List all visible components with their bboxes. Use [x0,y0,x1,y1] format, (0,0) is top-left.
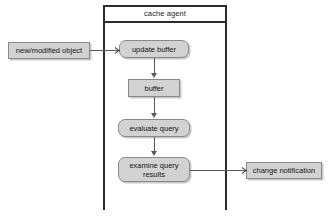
arrowhead-into-change-notification-icon [242,166,247,174]
node-evaluate-query-label: evaluate query [126,124,181,133]
node-change-notification-label: change notification [250,166,319,175]
node-examine-query-results-label: examine query results [126,161,181,179]
arrowhead-into-update-buffer-icon [115,46,120,54]
diagram-canvas: cache agent new/modified object update b… [0,0,328,219]
node-update-buffer-label: update buffer [129,45,179,54]
node-buffer[interactable]: buffer [128,79,180,97]
arrowhead-into-evaluate-query-icon [151,113,157,118]
node-examine-query-results[interactable]: examine query results [118,157,190,182]
node-examine-query-results-line2: results [143,170,165,179]
arrowhead-into-examine-query-results-icon [151,151,157,156]
node-evaluate-query[interactable]: evaluate query [118,119,190,137]
node-update-buffer[interactable]: update buffer [119,40,189,58]
cache-agent-title: cache agent [144,10,186,18]
node-change-notification[interactable]: change notification [246,162,322,179]
node-examine-query-results-line1: examine query [129,161,178,170]
node-new-modified-object[interactable]: new/modified object [8,42,90,59]
edge-evaluate-query-to-examine-query-results [154,137,155,152]
node-new-modified-object-label: new/modified object [13,46,85,55]
cache-agent-header: cache agent [103,5,227,23]
node-buffer-label: buffer [141,84,166,93]
arrowhead-into-buffer-icon [151,73,157,78]
edge-update-buffer-to-buffer [154,58,155,74]
edge-buffer-to-evaluate-query [154,97,155,114]
edge-examine-query-results-to-change-notification [190,170,247,171]
